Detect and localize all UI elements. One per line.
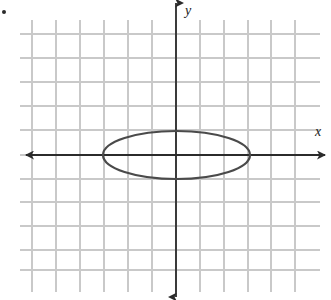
plot-background [0,0,331,300]
y-axis-label: y [185,4,191,18]
bullet-marker-icon [2,10,6,14]
graph-figure: y x [0,0,331,300]
coordinate-plane-svg [0,0,331,300]
x-axis-label: x [315,125,321,139]
